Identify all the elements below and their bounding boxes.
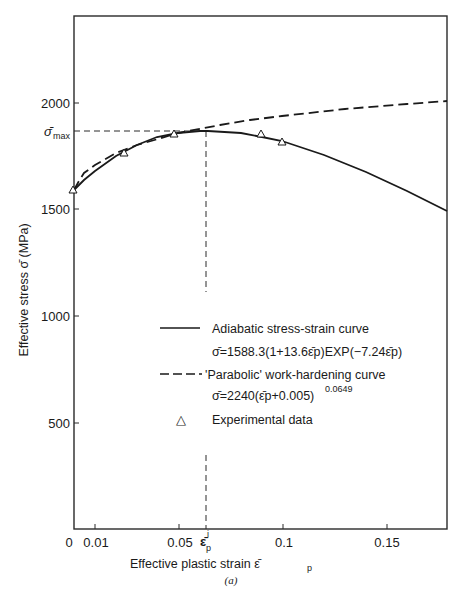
x-tick-0.05: 0.05: [167, 535, 192, 550]
y-axis-title: Effective stress σ̄ (MPa): [17, 223, 31, 356]
svg-text:Effective plastic strain ε̄: Effective plastic strain ε̄: [130, 557, 262, 571]
svg-text:p: p: [307, 563, 312, 573]
legend-adiabatic-label: Adiabatic stress-strain curve: [212, 322, 369, 336]
experimental-data-points: [69, 130, 286, 193]
sigma-max-label: σ̄ max: [44, 124, 71, 141]
y-tick-1500: 1500: [41, 202, 70, 217]
x-tick-0.15: 0.15: [374, 535, 399, 550]
adiabatic-curve: [74, 131, 447, 211]
x-tick-0: 0: [65, 535, 72, 550]
x-axis-ticks: [95, 524, 387, 529]
legend-triangle-icon: △: [176, 413, 186, 427]
legend-adiabatic-equation: σ̄=1588.3(1+13.6ε̄p)EXP(−7.24ε̄p): [212, 345, 402, 359]
svg-text:i: i: [207, 529, 209, 539]
parabolic-curve: [74, 101, 447, 190]
y-tick-1000: 1000: [41, 309, 70, 324]
eps-i-label: ε̄ p i: [200, 529, 211, 553]
data-point-triangle: [257, 130, 265, 137]
legend-parabolic-equation: σ̄=2240(ε̄p+0.005): [212, 389, 314, 403]
legend-parabolic-exponent: 0.0649: [325, 384, 353, 394]
y-tick-500: 500: [48, 416, 70, 431]
stress-strain-chart: 500 1000 1500 2000 σ̄ max 0 0.01 0.05 0.…: [0, 0, 462, 592]
legend: Adiabatic stress-strain curve σ̄=1588.3(…: [160, 322, 402, 427]
x-tick-0.1: 0.1: [275, 535, 293, 550]
y-axis-ticks: [74, 103, 79, 423]
x-axis-title: Effective plastic strain ε̄ p: [130, 557, 312, 573]
legend-parabolic-label: 'Parabolic' work-hardening curve: [205, 368, 386, 382]
legend-experimental-label: Experimental data: [212, 413, 313, 427]
figure-caption: (a): [225, 574, 238, 587]
x-tick-0.01: 0.01: [83, 535, 108, 550]
plot-frame: [74, 16, 447, 529]
svg-text:p: p: [206, 543, 211, 553]
svg-text:max: max: [53, 131, 71, 141]
y-tick-2000: 2000: [41, 96, 70, 111]
